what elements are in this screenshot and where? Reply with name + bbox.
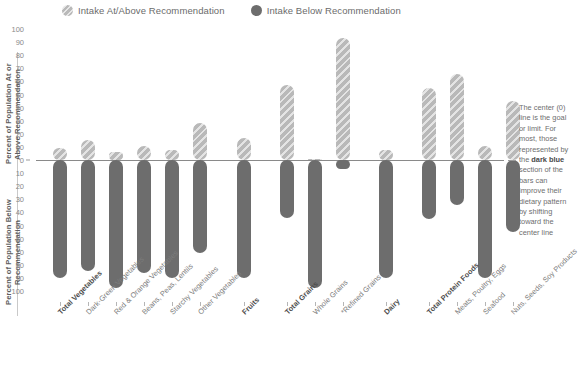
legend-item-below: Intake Below Recommendation [251, 5, 401, 16]
x-axis-tick-mark [144, 302, 145, 306]
chart-annotation-note: The center (0) line is the goal or limit… [519, 103, 571, 238]
note-bold-dark-blue: dark blue [531, 155, 564, 164]
bar-below[interactable] [379, 160, 393, 278]
x-axis-tick-mark [315, 302, 316, 306]
y-axis-tick-label: 80 [0, 51, 24, 60]
note-leader-line [508, 160, 516, 161]
zero-reference-line [36, 160, 504, 161]
bar-above[interactable] [478, 146, 492, 160]
y-axis-tick-label: 100 [0, 287, 24, 296]
x-axis-tick-mark [172, 302, 173, 306]
y-axis-tick-label: 10 [0, 142, 24, 151]
note-line-11: by shifting [519, 207, 552, 216]
chart-legend: Intake At/Above Recommendation Intake Be… [0, 0, 574, 20]
bar-above[interactable] [506, 101, 520, 160]
legend-label-at-above: Intake At/Above Recommendation [78, 5, 225, 16]
x-axis-tick-mark [287, 302, 288, 306]
bar-below[interactable] [506, 160, 520, 232]
note-line-1: The center (0) [519, 103, 565, 112]
x-axis-tick-mark [244, 302, 245, 306]
legend-label-below: Intake Below Recommendation [267, 5, 401, 16]
bar-below[interactable] [137, 160, 151, 273]
note-line-12: toward the [519, 217, 554, 226]
x-axis-tick-mark [485, 302, 486, 306]
y-axis-tick-label: 20 [0, 182, 24, 191]
bar-below[interactable] [237, 160, 251, 278]
bar-below[interactable] [193, 160, 207, 253]
bar-below[interactable] [280, 160, 294, 218]
bar-below[interactable] [478, 160, 492, 278]
y-axis-tick-label: 90 [0, 273, 24, 282]
x-axis-label: Nuts, Seeds, Soy Products [509, 247, 579, 317]
bar-above[interactable] [165, 150, 179, 160]
bar-above[interactable] [193, 123, 207, 160]
y-axis-tick-label: 40 [0, 208, 24, 217]
y-axis-tick-label: 20 [0, 129, 24, 138]
note-line-10: dietary pattern [519, 197, 566, 206]
bar-below[interactable] [308, 160, 322, 288]
note-line-2: line is the [519, 113, 550, 122]
x-axis-tick-mark [116, 302, 117, 306]
bar-below[interactable] [165, 160, 179, 278]
note-line-8: bars can [519, 176, 547, 185]
x-axis-tick-mark [60, 302, 61, 306]
y-axis-tick-label: 30 [0, 116, 24, 125]
bar-below[interactable] [109, 160, 123, 288]
y-axis-tick-label: 0 [0, 156, 24, 165]
x-axis-tick-mark [200, 302, 201, 306]
x-axis-tick-mark [88, 302, 89, 306]
bar-above[interactable] [336, 38, 350, 160]
bar-above[interactable] [53, 148, 67, 160]
x-axis-tick-mark [386, 302, 387, 306]
bar-above[interactable] [137, 146, 151, 160]
circle-hatched-icon [62, 5, 73, 16]
chart-plot-area [44, 29, 504, 296]
bar-above[interactable] [450, 74, 464, 160]
x-axis-tick-mark [457, 302, 458, 306]
x-axis-tick-mark [513, 302, 514, 306]
bar-above[interactable] [422, 88, 436, 160]
x-axis-label: Fruits [240, 295, 261, 316]
y-axis-tick-label: 70 [0, 64, 24, 73]
bar-above[interactable] [280, 85, 294, 160]
bar-above[interactable] [109, 152, 123, 160]
y-axis-tick-mark [26, 160, 30, 161]
y-axis-tick-label: 50 [0, 221, 24, 230]
y-axis-tick-label: 40 [0, 103, 24, 112]
y-axis-tick-label: 30 [0, 195, 24, 204]
y-axis-tick-label: 10 [0, 169, 24, 178]
bar-below[interactable] [422, 160, 436, 219]
y-axis: Percent of Population At or Above Recomm… [0, 22, 44, 307]
bar-below[interactable] [81, 160, 95, 271]
bar-below[interactable] [336, 160, 350, 169]
y-axis-tick-label: 100 [0, 25, 24, 34]
y-axis-tick-label: 80 [0, 260, 24, 269]
bar-above[interactable] [379, 150, 393, 160]
circle-solid-icon [251, 5, 262, 16]
legend-item-at-above: Intake At/Above Recommendation [62, 5, 225, 16]
bar-above[interactable] [237, 138, 251, 160]
x-axis-tick-mark [429, 302, 430, 306]
note-line-9: improve their [519, 186, 562, 195]
y-axis-tick-label: 90 [0, 38, 24, 47]
note-line-7: section of the [519, 165, 563, 174]
x-axis-tick-mark [343, 302, 344, 306]
note-line-13: center line [519, 228, 553, 237]
bar-below[interactable] [53, 160, 67, 278]
x-axis-label: Dairy [382, 297, 402, 317]
bar-below[interactable] [450, 160, 464, 205]
y-axis-tick-label: 60 [0, 77, 24, 86]
y-axis-tick-label: 60 [0, 234, 24, 243]
y-axis-tick-label: 50 [0, 90, 24, 99]
bar-above[interactable] [81, 140, 95, 160]
note-line-5: represented by [519, 145, 568, 154]
note-line-6: the [519, 155, 531, 164]
y-axis-tick-label: 70 [0, 247, 24, 256]
